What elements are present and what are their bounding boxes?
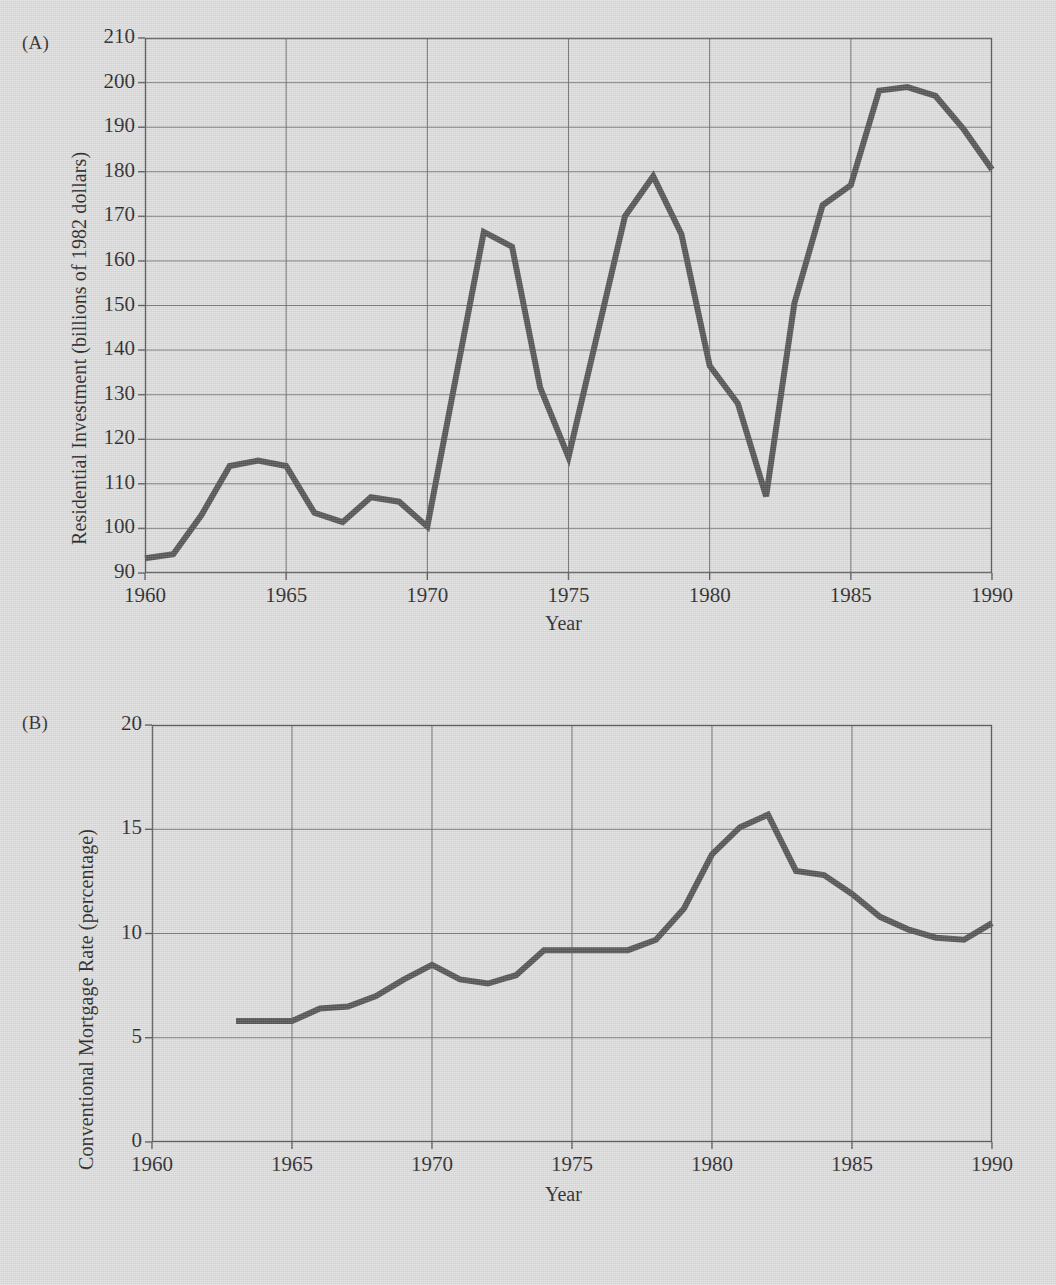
panel-b-x-axis-label: Year	[545, 1183, 582, 1206]
y-tick-label: 140	[85, 336, 135, 361]
panel-a: (A) Residential Investment (billions of …	[0, 0, 1056, 660]
y-tick-label: 90	[85, 559, 135, 584]
data-series-line	[236, 815, 992, 1021]
x-tick-label: 1970	[387, 583, 467, 608]
x-tick-label: 1960	[105, 583, 185, 608]
y-tick-label: 170	[85, 202, 135, 227]
y-tick-label: 100	[85, 514, 135, 539]
y-tick-label: 200	[85, 69, 135, 94]
panel-a-plot	[145, 38, 992, 573]
y-tick-label: 15	[92, 815, 142, 840]
y-tick-label: 110	[85, 470, 135, 495]
x-tick-label: 1975	[529, 583, 609, 608]
x-tick-label: 1965	[252, 1152, 332, 1177]
panel-b-tag: (B)	[22, 712, 48, 734]
x-tick-label: 1985	[812, 1152, 892, 1177]
figure-page: (A) Residential Investment (billions of …	[0, 0, 1056, 1285]
y-tick-label: 20	[92, 711, 142, 736]
x-tick-label: 1980	[672, 1152, 752, 1177]
x-tick-label: 1990	[952, 1152, 1032, 1177]
y-tick-label: 5	[92, 1024, 142, 1049]
y-tick-label: 190	[85, 113, 135, 138]
y-tick-label: 150	[85, 292, 135, 317]
x-tick-label: 1965	[246, 583, 326, 608]
x-tick-label: 1975	[532, 1152, 612, 1177]
y-tick-label: 180	[85, 158, 135, 183]
y-tick-label: 120	[85, 425, 135, 450]
panel-b: (B) Conventional Mortgage Rate (percenta…	[0, 660, 1056, 1285]
panel-b-plot	[152, 725, 992, 1142]
panel-a-tag: (A)	[22, 32, 49, 54]
panel-a-x-axis-label: Year	[545, 612, 582, 635]
y-tick-label: 210	[85, 24, 135, 49]
x-tick-label: 1990	[952, 583, 1032, 608]
panel-b-y-axis-label: Conventional Mortgage Rate (percentage)	[75, 829, 98, 1170]
y-tick-label: 160	[85, 247, 135, 272]
x-tick-label: 1980	[670, 583, 750, 608]
y-tick-label: 10	[92, 920, 142, 945]
y-tick-label: 130	[85, 381, 135, 406]
y-tick-label: 0	[92, 1128, 142, 1153]
x-tick-label: 1970	[392, 1152, 472, 1177]
x-tick-label: 1960	[112, 1152, 192, 1177]
x-tick-label: 1985	[811, 583, 891, 608]
